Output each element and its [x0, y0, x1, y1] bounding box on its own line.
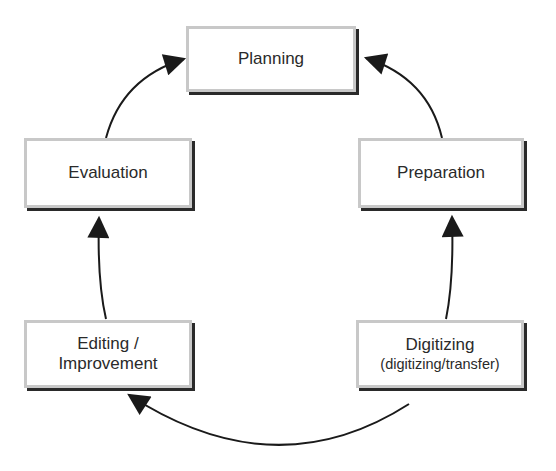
node-label: Planning — [238, 49, 304, 69]
node-editing: Editing / Improvement — [24, 320, 192, 388]
node-digitizing: Digitizing (digitizing/transfer) — [356, 320, 524, 388]
arrow-evaluation-to-planning — [106, 59, 184, 138]
arrow-editing-to-evaluation — [99, 218, 106, 319]
cycle-diagram: Planning Evaluation Preparation Editing … — [0, 0, 556, 471]
node-label: Evaluation — [68, 163, 147, 183]
node-label-line2: Improvement — [58, 354, 157, 374]
arrow-digitizing-to-preparation — [446, 217, 452, 319]
node-planning: Planning — [186, 26, 356, 92]
node-label: Editing / — [77, 334, 138, 354]
arrow-preparation-to-planning — [366, 58, 442, 138]
node-sublabel: (digitizing/transfer) — [380, 356, 499, 373]
node-label: Preparation — [397, 163, 485, 183]
node-evaluation: Evaluation — [24, 138, 192, 208]
node-preparation: Preparation — [358, 138, 524, 208]
arrow-digitizing-to-editing — [129, 395, 409, 445]
node-label: Digitizing — [406, 335, 475, 355]
